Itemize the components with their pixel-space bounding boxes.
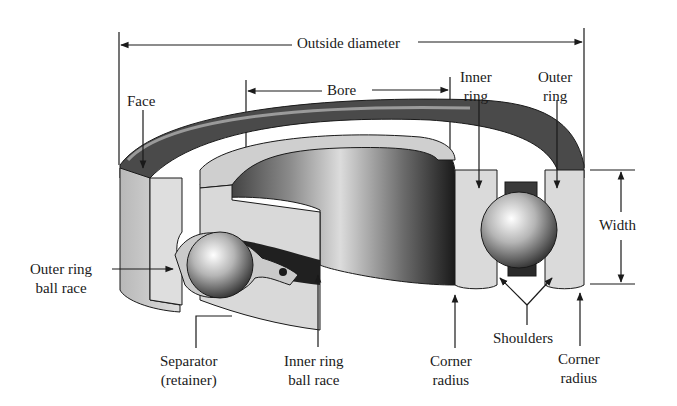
corner-radius-right-line1: Corner — [558, 350, 600, 369]
inner-ring-label: Inner ring — [460, 68, 492, 106]
corner-radius-left-line1: Corner — [430, 352, 472, 371]
corner-radius-right-line2: radius — [558, 369, 600, 388]
inner-ring-label-line2: ring — [460, 87, 492, 106]
outer-ring-label-line1: Outer — [538, 68, 572, 87]
bore-label: Bore — [322, 81, 361, 100]
outside-diameter-label: Outside diameter — [292, 34, 405, 53]
separator-label-line1: Separator — [160, 352, 217, 371]
inner-ring-ball-race-label: Inner ring ball race — [284, 352, 344, 390]
right-cross-section — [455, 170, 584, 289]
inner-ring-ball-race-line2: ball race — [284, 371, 344, 390]
separator-label-line2: (retainer) — [160, 371, 217, 390]
shoulders-label: Shoulders — [493, 329, 553, 348]
separator-label: Separator (retainer) — [160, 352, 217, 390]
outer-ring-label: Outer ring — [538, 68, 572, 106]
corner-radius-right-label: Corner radius — [558, 350, 600, 388]
outer-ring-ball-race-line1: Outer ring — [30, 260, 92, 279]
outer-ring-ball-race-line2: ball race — [30, 279, 92, 298]
face-label: Face — [127, 92, 155, 111]
inner-ring — [200, 135, 455, 330]
width-label: Width — [594, 216, 641, 235]
corner-radius-left-label: Corner radius — [430, 352, 472, 390]
bearing-diagram — [0, 0, 677, 406]
inner-ring-label-line1: Inner — [460, 68, 492, 87]
inner-ring-ball-race-line1: Inner ring — [284, 352, 344, 371]
outer-ring-label-line2: ring — [538, 87, 572, 106]
outer-ring-ball-race-label: Outer ring ball race — [30, 260, 92, 298]
corner-radius-left-line2: radius — [430, 371, 472, 390]
